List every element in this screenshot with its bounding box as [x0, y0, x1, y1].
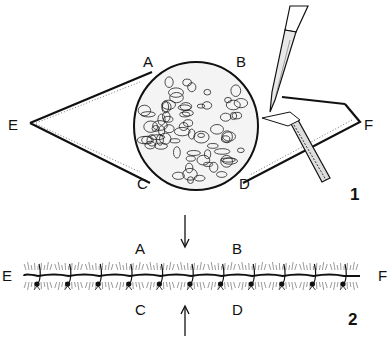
- figure-2: A B C D E F 2: [2, 215, 387, 336]
- illustration: A B C D E F 1 A B C D E F 2: [0, 0, 392, 339]
- fig1-label-c: C: [137, 175, 148, 192]
- fig1-label-a: A: [143, 53, 153, 70]
- fig1-label-f: F: [364, 116, 373, 133]
- fig2-label-b: B: [232, 240, 242, 257]
- fig2-label-d: D: [232, 301, 243, 318]
- fig2-label-a: A: [135, 240, 145, 257]
- fig2-label-c: C: [135, 301, 146, 318]
- fig2-label-f: F: [378, 267, 387, 284]
- figure-2-number: 2: [348, 310, 357, 329]
- fig1-label-b: B: [236, 53, 246, 70]
- suture-line: [24, 262, 360, 290]
- wound-edge: [24, 275, 360, 277]
- fig2-label-e: E: [2, 267, 12, 284]
- scalpel-icon: [270, 6, 308, 112]
- figure-1: A B C D E F 1: [8, 6, 373, 204]
- figure-1-number: 1: [350, 185, 359, 204]
- fig1-label-d: D: [239, 175, 250, 192]
- forceps-icon: [262, 112, 330, 182]
- fig1-label-e: E: [8, 116, 18, 133]
